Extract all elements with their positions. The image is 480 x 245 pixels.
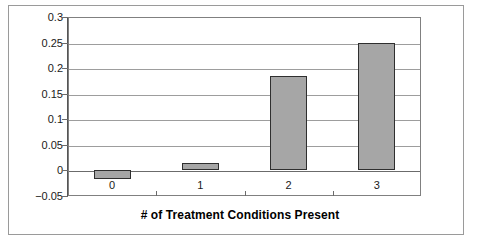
bars-layer <box>68 17 421 196</box>
chart-figure: 0.30.250.20.150.10.050−0.05 # of Treatme… <box>0 0 480 245</box>
x-axis-tick-label: 3 <box>374 180 380 191</box>
y-axis-tick-label: 0 <box>3 165 63 176</box>
y-axis-tick-mark <box>62 170 68 171</box>
x-axis-tick-label: 1 <box>197 180 203 191</box>
x-axis-tick-label: 2 <box>286 180 292 191</box>
y-axis-tick-label: −0.05 <box>3 191 63 202</box>
y-axis-tick-label: 0.25 <box>3 37 63 48</box>
y-axis-tick-label: 0.3 <box>3 12 63 23</box>
y-axis-tick-labels: 0.30.250.20.150.10.050−0.05 <box>0 17 63 196</box>
y-axis-tick-label: 0.1 <box>3 114 63 125</box>
bar <box>94 170 131 179</box>
y-axis-tick-label: 0.15 <box>3 88 63 99</box>
x-axis-tick-mark <box>333 191 334 196</box>
y-axis-tick-mark <box>62 68 68 69</box>
y-axis-tick-mark <box>62 43 68 44</box>
bar <box>358 43 395 171</box>
y-axis-tick-label: 0.05 <box>3 139 63 150</box>
bar <box>182 163 219 171</box>
y-axis-tick-mark <box>62 94 68 95</box>
x-axis-title: # of Treatment Conditions Present <box>0 208 480 222</box>
y-axis-tick-label: 0.2 <box>3 63 63 74</box>
x-axis-tick-label: 0 <box>109 180 115 191</box>
y-axis-tick-mark <box>62 196 68 197</box>
y-axis-tick-mark <box>62 119 68 120</box>
x-axis-tick-mark <box>245 191 246 196</box>
bar <box>270 76 307 171</box>
x-axis-tick-mark <box>156 191 157 196</box>
y-axis-tick-mark <box>62 17 68 18</box>
y-axis-tick-mark <box>62 145 68 146</box>
